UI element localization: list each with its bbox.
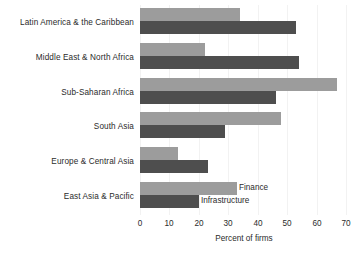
legend-label-finance: Finance xyxy=(239,183,268,193)
bar-finance xyxy=(140,112,281,125)
bar-infrastructure xyxy=(140,91,276,104)
bar-finance xyxy=(140,147,178,160)
bar-finance xyxy=(140,43,205,56)
bar-finance xyxy=(140,8,240,21)
bar-chart: Latin America & the Caribbean Middle Eas… xyxy=(0,0,362,253)
gridline xyxy=(287,5,288,215)
gridline xyxy=(317,5,318,215)
legend-label-infrastructure: Infrastructure xyxy=(201,196,249,206)
bar-infrastructure xyxy=(140,195,199,208)
bar-finance xyxy=(140,78,337,91)
x-tick-label: 30 xyxy=(223,218,232,229)
category-label: Latin America & the Caribbean xyxy=(0,18,134,28)
x-tick-label: 20 xyxy=(194,218,203,229)
x-tick-label: 40 xyxy=(253,218,262,229)
x-tick-label: 0 xyxy=(138,218,143,229)
bar-infrastructure xyxy=(140,160,208,173)
x-axis-title: Percent of firms xyxy=(140,234,348,243)
category-label: Sub-Saharan Africa xyxy=(0,88,134,98)
category-label: East Asia & Pacific xyxy=(0,192,134,202)
bar-infrastructure xyxy=(140,56,299,69)
x-tick-label: 50 xyxy=(282,218,291,229)
bar-infrastructure xyxy=(140,125,225,138)
category-label: Middle East & North Africa xyxy=(0,53,134,63)
gridline xyxy=(346,5,347,215)
plot-area: Finance Infrastructure xyxy=(140,5,348,215)
x-axis: 0 10 20 30 40 50 60 70 xyxy=(140,218,348,230)
x-tick-label: 60 xyxy=(312,218,321,229)
x-tick-label: 10 xyxy=(164,218,173,229)
bar-infrastructure xyxy=(140,21,296,34)
category-axis: Latin America & the Caribbean Middle Eas… xyxy=(0,0,134,215)
x-tick-label: 70 xyxy=(341,218,350,229)
bar-finance xyxy=(140,182,237,195)
category-label: South Asia xyxy=(0,122,134,132)
category-label: Europe & Central Asia xyxy=(0,157,134,167)
